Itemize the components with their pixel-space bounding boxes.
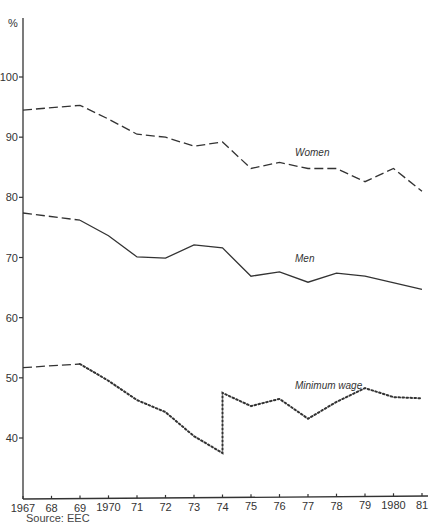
- women-line: [23, 105, 422, 191]
- minimum-wage-line: [80, 364, 422, 453]
- y-tick-label: 50: [6, 372, 18, 384]
- y-tick-label: 60: [6, 312, 18, 324]
- x-tick-label: 74: [216, 501, 228, 513]
- x-tick-label: 77: [302, 500, 314, 512]
- y-axis-unit: %: [8, 17, 18, 29]
- x-tick-label: 72: [159, 501, 171, 513]
- series-lines: [23, 105, 422, 453]
- minimum-wage-label: Minimum wage: [295, 380, 363, 391]
- x-tick-label: 73: [188, 501, 200, 513]
- y-tick-label: 70: [6, 252, 18, 264]
- x-tick-label: 71: [131, 501, 143, 513]
- line-chart: %405060708090100196768691970717273747576…: [0, 0, 436, 527]
- y-tick-label: 40: [6, 432, 18, 444]
- axes: %405060708090100196768691970717273747576…: [0, 17, 428, 514]
- x-tick-label: 81: [416, 499, 428, 511]
- source-note: Source: EEC: [26, 512, 90, 524]
- men-line-dashed-segment: [23, 213, 80, 220]
- y-tick-label: 90: [6, 131, 18, 143]
- x-tick-label: 76: [273, 500, 285, 512]
- minimum-wage-line-dashed-segment: [23, 364, 80, 368]
- women-label: Women: [295, 147, 330, 158]
- x-tick-label: 79: [359, 499, 371, 511]
- x-tick-label: 78: [330, 500, 342, 512]
- x-tick-label: 75: [245, 500, 257, 512]
- y-tick-label: 80: [6, 191, 18, 203]
- series-labels: WomenMenMinimum wage: [295, 147, 363, 391]
- y-tick-label: 100: [0, 71, 18, 83]
- men-label: Men: [295, 253, 315, 264]
- men-line: [80, 220, 422, 289]
- x-tick-label: 1970: [96, 501, 120, 513]
- x-tick-label: 1980: [381, 499, 405, 511]
